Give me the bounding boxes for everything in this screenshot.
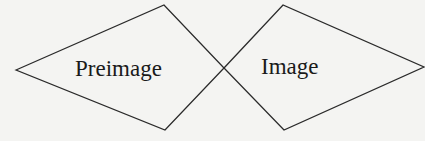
preimage-label: Preimage (75, 57, 162, 80)
diagram-canvas: Preimage Image (0, 0, 425, 141)
image-kite-shape (224, 5, 424, 130)
image-label: Image (261, 55, 318, 78)
diagram-shapes (0, 0, 425, 141)
